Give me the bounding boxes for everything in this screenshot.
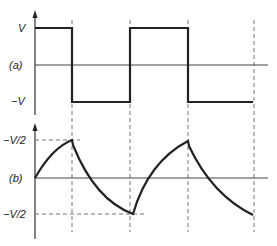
waveform-diagram: V (a) −V −V/2 (b) −V/2 <box>0 0 277 246</box>
arrow-up-icon <box>33 123 38 131</box>
panel-b: −V/2 (b) −V/2 <box>3 123 268 239</box>
label-v: V <box>18 22 27 34</box>
label-bottom-b: −V/2 <box>3 208 26 220</box>
vertical-guides <box>72 20 254 232</box>
label-b: (b) <box>9 172 23 184</box>
arrow-up-icon <box>33 10 38 18</box>
label-a: (a) <box>9 59 23 71</box>
label-neg-v: −V <box>11 95 26 107</box>
label-top-b: −V/2 <box>3 134 26 146</box>
panel-a: V (a) −V <box>9 10 268 115</box>
